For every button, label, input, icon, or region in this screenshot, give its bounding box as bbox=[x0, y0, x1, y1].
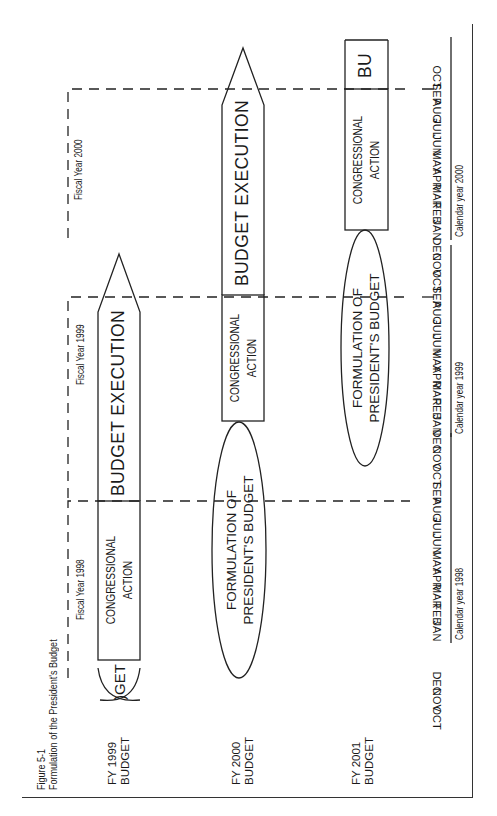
month-label: OCT bbox=[431, 65, 442, 89]
row3-congressional-text: CONGRESSIONAL ACTION bbox=[349, 90, 383, 230]
row3-label-line2: BUDGET bbox=[363, 737, 376, 785]
row3-label-line1: FY 2001 bbox=[350, 737, 363, 785]
figure-title: Figure 5-1 Formulation of the President'… bbox=[35, 639, 59, 790]
row2-congressional-line2: ACTION bbox=[243, 288, 260, 428]
month-label: DEC bbox=[431, 671, 442, 695]
row3-formulation-line2: PRESIDENT'S BUDGET bbox=[366, 228, 383, 468]
fiscal-year-2000-label: Fiscal Year 2000 bbox=[74, 139, 84, 200]
calendar-year-2000-label: Calendar year 2000 bbox=[455, 165, 465, 237]
row2-formulation-line1: FORMULATION OF bbox=[223, 430, 240, 670]
row2-label-line1: FY 2000 bbox=[230, 737, 243, 785]
figure-caption: Formulation of the President's Budget bbox=[47, 639, 59, 790]
row1-label: FY 1999 BUDGET bbox=[106, 737, 131, 785]
row1-congressional-line1: CONGRESSIONAL bbox=[102, 510, 119, 650]
row2-congressional-text: CONGRESSIONAL ACTION bbox=[226, 288, 260, 428]
row2-congressional-line1: CONGRESSIONAL bbox=[226, 288, 243, 428]
row3-label: FY 2001 BUDGET bbox=[350, 737, 375, 785]
row3-congressional-line1: CONGRESSIONAL bbox=[349, 90, 366, 230]
row2-label: FY 2000 BUDGET bbox=[230, 737, 255, 785]
calendar-year-1999-label: Calendar year 1999 bbox=[455, 362, 465, 434]
calendar-year-1998-label: Calendar year 1998 bbox=[455, 568, 465, 640]
row3-execution-partial: BU bbox=[357, 53, 375, 78]
row1-label-line1: FY 1999 bbox=[106, 737, 119, 785]
row1-congressional-line2: ACTION bbox=[119, 510, 136, 650]
row3-formulation-text: FORMULATION OF PRESIDENT'S BUDGET bbox=[349, 228, 383, 468]
figure-canvas: Figure 5-1 Formulation of the President'… bbox=[22, 22, 475, 798]
row1-execution-text: BUDGET EXECUTION bbox=[110, 310, 128, 496]
row1-formulation-partial: )GET bbox=[111, 664, 128, 700]
row2-label-line2: BUDGET bbox=[243, 737, 256, 785]
row1-label-line2: BUDGET bbox=[119, 737, 132, 785]
row2-formulation-text: FORMULATION OF PRESIDENT'S BUDGET bbox=[223, 430, 257, 670]
row2-formulation-line2: PRESIDENT'S BUDGET bbox=[240, 430, 257, 670]
fiscal-year-1998-label: Fiscal Year 1998 bbox=[76, 559, 86, 620]
row2-execution-text: BUDGET EXECUTION bbox=[234, 100, 252, 286]
figure-number: Figure 5-1 bbox=[35, 639, 47, 790]
row3-formulation-line1: FORMULATION OF bbox=[349, 228, 366, 468]
fiscal-year-1999-label: Fiscal Year 1999 bbox=[76, 324, 86, 385]
row3-congressional-line2: ACTION bbox=[366, 90, 383, 230]
row1-congressional-text: CONGRESSIONAL ACTION bbox=[102, 510, 136, 650]
